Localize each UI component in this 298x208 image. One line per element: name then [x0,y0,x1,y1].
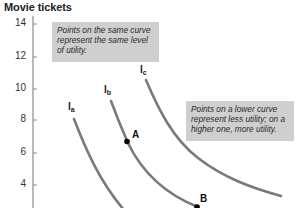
y-tick-10: 10 [6,82,26,93]
y-tick-4: 4 [6,178,26,189]
point-a-label: A [132,129,139,140]
y-tick-6: 6 [6,146,26,157]
curve-label-b: Ib [104,84,111,96]
y-tick-12: 12 [6,50,26,61]
indifference-curve-b [111,101,198,207]
y-tick-14: 14 [6,17,26,28]
indifference-curve-a [74,119,124,208]
point-a-marker [124,139,130,145]
curve-label-a: Ia [68,101,75,113]
curve-label-c: Ic [140,64,147,76]
annotation-same-curve: Points on the same curve represent the s… [52,22,159,62]
point-b-label: B [200,193,207,204]
annotation-lower-curve: Points on a lower curve represent less u… [186,101,294,141]
y-tick-8: 8 [6,113,26,124]
